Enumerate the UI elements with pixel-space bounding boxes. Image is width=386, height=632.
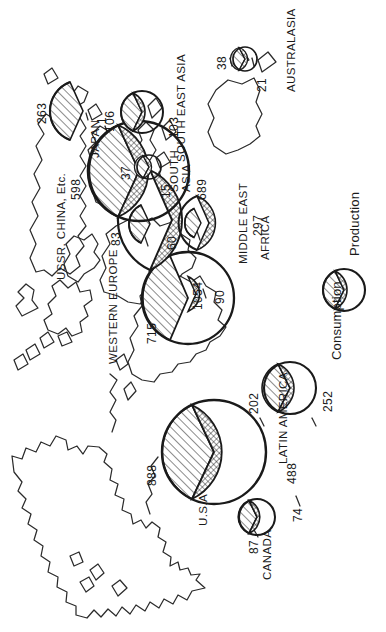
legend-label-consumption: Consumption [330, 281, 343, 360]
legend-label-production: Production [348, 192, 361, 256]
region-label-usa: U.S.A [198, 494, 210, 526]
pie-latin-america [262, 360, 318, 416]
pie-usa [162, 400, 266, 504]
value-usa-production: 488 [286, 463, 298, 484]
region-label-canada: CANADA [262, 530, 274, 580]
pie-south-asia [136, 154, 162, 180]
value-japan-consumption: 263 [36, 103, 48, 124]
pie-south-east-asia [120, 90, 164, 134]
value-south-east-asia-consumption: 106 [104, 111, 116, 132]
region-label-latin-america: LATIN AMERICA [278, 372, 290, 464]
region-label-south-east-asia: SOUTH EAST ASIA [176, 54, 188, 162]
region-label-australasia: AUSTRALASIA [286, 8, 298, 92]
value-western-europe-consumption: 715 [146, 323, 158, 344]
value-latin-america-production: 252 [322, 391, 334, 412]
value-middle-east-consumption: 83 [110, 232, 122, 246]
value-africa-consumption: 60 [166, 236, 178, 250]
value-australasia-consumption: 38 [216, 56, 228, 70]
value-western-europe-production: 90 [214, 290, 226, 304]
value-south-asia-production: 15 [160, 184, 172, 198]
value-canada-consumption: 87 [248, 540, 260, 554]
value-ussr-china-production: 689 [196, 179, 208, 200]
value-africa-production: 297 [252, 215, 264, 236]
value-south-east-asia-production: 103 [168, 117, 180, 138]
value-usa-consumption: 888 [146, 465, 158, 486]
value-middle-east-production: 1054 [192, 282, 204, 310]
map-figure: CANADA 87 74 U.S.A 888 488 LATIN AMERICA… [0, 0, 386, 632]
value-south-asia-consumption: 37 [120, 166, 132, 180]
region-label-ussr-china: USSR, CHINA, Etc. [56, 173, 68, 280]
pie-australasia [232, 46, 258, 72]
value-ussr-china-consumption: 598 [70, 179, 82, 200]
rotated-map-canvas: CANADA 87 74 U.S.A 888 488 LATIN AMERICA… [0, 0, 386, 632]
value-canada-production: 74 [292, 508, 304, 522]
value-australasia-production: 21 [256, 78, 268, 92]
value-latin-america-consumption: 202 [248, 393, 260, 414]
region-label-japan: JAPAN [90, 120, 102, 158]
